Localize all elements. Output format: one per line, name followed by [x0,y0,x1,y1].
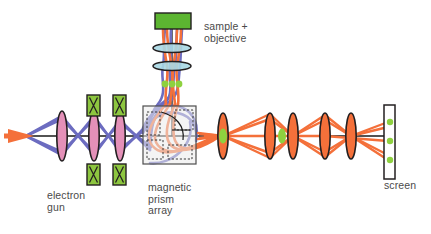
projector-lens-4 [320,113,330,159]
deflector-bottom-1 [87,164,100,185]
deflector-top-1 [87,95,100,116]
label-electron-gun: electron gun [47,190,85,213]
objective-crossover-left [162,81,169,88]
deflector-bottom-2 [113,164,126,185]
sample-block [155,13,191,29]
projector-lens-5 [346,113,356,159]
deflector-top-2 [113,95,126,116]
label-magnetic-prism-array: magnetic prism array [148,182,191,217]
screen-spot-bottom [387,157,393,163]
objective-crossover-right [176,81,183,88]
electron-source-arrow [4,129,34,143]
objective-crossover-spots [162,81,183,88]
projector-lens-2 [265,113,275,159]
projector-lens-3 [288,113,298,159]
condenser-lens-1 [57,111,67,161]
magnetic-prism-array-box [143,106,196,164]
condenser-lens-group [57,111,125,161]
condenser-lens-3 [115,111,125,161]
detector-screen [384,105,395,179]
crossover-spot-1 [219,129,227,144]
objective-lens-2 [153,61,191,70]
label-sample-objective: sample + objective [204,21,248,44]
crossover-spot-2 [278,129,286,144]
objective-lens-1 [153,43,191,52]
screen-spot-center [387,138,393,144]
figure-canvas: sample + objective electron gun magnetic… [0,0,431,234]
condenser-lens-2 [89,111,99,161]
label-screen: screen [384,180,416,192]
objective-crossover-center [169,81,176,88]
screen-spot-top [387,119,393,125]
